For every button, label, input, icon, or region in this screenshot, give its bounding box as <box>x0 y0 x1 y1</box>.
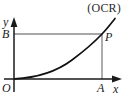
figure-container: (OCR) y x O B A P <box>0 0 126 99</box>
point-p-label: P <box>104 30 113 44</box>
x-axis-label: x <box>112 82 119 96</box>
coordinate-diagram: y x O B A P <box>0 0 126 99</box>
point-a-label: A <box>96 81 105 95</box>
origin-label: O <box>2 81 11 95</box>
y-axis-arrowhead <box>11 17 18 27</box>
point-b-label: B <box>2 27 10 41</box>
exponential-curve <box>15 19 116 79</box>
